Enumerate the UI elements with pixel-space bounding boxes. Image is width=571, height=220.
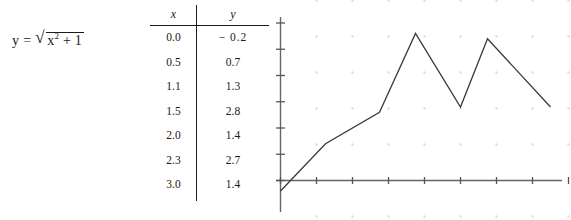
grid-dot	[460, 216, 462, 218]
grid-dot	[388, 108, 390, 110]
grid-dot	[388, 72, 390, 74]
equation-operator: =	[23, 33, 31, 48]
data-polyline	[281, 34, 551, 192]
grid-dot	[532, 72, 534, 74]
table-header-row: x y	[150, 3, 269, 25]
line-chart	[270, 0, 571, 220]
grid-dot	[532, 108, 534, 110]
grid-dot	[496, 216, 498, 218]
radicand-tail: + 1	[63, 33, 82, 48]
grid-dot	[496, 108, 498, 110]
table-column-divider	[196, 5, 197, 201]
grid-dot	[424, 216, 426, 218]
grid-dot	[496, 36, 498, 38]
table-row: 3.0 1.4	[150, 172, 269, 197]
grid-dot	[388, 36, 390, 38]
grid-dot	[568, 108, 570, 110]
grid-dot	[316, 36, 318, 38]
cell-y: 0.7	[197, 50, 269, 75]
grid-dot	[388, 216, 390, 218]
table-row: 2.0 1.4	[150, 123, 269, 148]
grid-dot	[460, 0, 462, 2]
table-row: 2.3 2.7	[150, 148, 269, 173]
grid-dot	[496, 0, 498, 2]
grid-dot	[424, 144, 426, 146]
grid-dot	[532, 36, 534, 38]
grid-dot	[316, 144, 318, 146]
cell-x: 2.3	[150, 148, 197, 173]
grid-dot	[352, 144, 354, 146]
grid-dot	[424, 0, 426, 2]
cell-y: 1.4	[197, 123, 269, 148]
column-header-x: x	[150, 3, 197, 25]
cell-x: 0.0	[150, 25, 197, 50]
grid-dot	[352, 72, 354, 74]
chart-axes	[276, 17, 569, 212]
cell-y: 2.7	[197, 148, 269, 173]
radical-expression: √x2 + 1	[35, 31, 84, 48]
equation-formula: y=√x2 + 1	[12, 31, 84, 48]
grid-dots	[316, 0, 570, 218]
grid-dot	[388, 0, 390, 2]
grid-dot	[532, 0, 534, 2]
grid-dot	[388, 144, 390, 146]
table-row: 1.5 2.8	[150, 99, 269, 124]
grid-dot	[424, 36, 426, 38]
grid-dot	[568, 72, 570, 74]
radicand: x2 + 1	[46, 32, 84, 48]
grid-dot	[532, 216, 534, 218]
cell-y: 1.4	[197, 172, 269, 197]
grid-dot	[424, 108, 426, 110]
table-row: 0.5 0.7	[150, 50, 269, 75]
cell-x: 1.5	[150, 99, 197, 124]
grid-dot	[568, 36, 570, 38]
grid-dot	[568, 216, 570, 218]
grid-dot	[316, 0, 318, 2]
radicand-base: x	[47, 33, 54, 48]
grid-dot	[568, 144, 570, 146]
grid-dot	[316, 72, 318, 74]
grid-dot	[316, 216, 318, 218]
grid-dot	[568, 0, 570, 2]
equation-lhs: y	[12, 33, 19, 48]
grid-dot	[352, 108, 354, 110]
cell-y: 1.3	[197, 74, 269, 99]
table-header-rule	[150, 25, 269, 26]
grid-dot	[316, 108, 318, 110]
table-row: 0.0 − 0.2	[150, 25, 269, 50]
column-header-y: y	[197, 3, 269, 25]
grid-dot	[352, 36, 354, 38]
cell-x: 2.0	[150, 123, 197, 148]
grid-dot	[460, 144, 462, 146]
cell-y: 2.8	[197, 99, 269, 124]
grid-dot	[352, 0, 354, 2]
grid-dot	[352, 216, 354, 218]
cell-x: 0.5	[150, 50, 197, 75]
table-body: 0.0 − 0.2 0.5 0.7 1.1 1.3 1.5 2.8 2.0	[150, 25, 269, 197]
grid-dot	[424, 72, 426, 74]
cell-y: − 0.2	[197, 25, 269, 50]
data-table: x y 0.0 − 0.2 0.5 0.7 1.1 1.3 1.5	[150, 3, 270, 203]
cell-x: 3.0	[150, 172, 197, 197]
cell-x: 1.1	[150, 74, 197, 99]
xy-table: x y 0.0 − 0.2 0.5 0.7 1.1 1.3 1.5	[150, 3, 269, 197]
table-row: 1.1 1.3	[150, 74, 269, 99]
grid-dot	[496, 144, 498, 146]
figure-container: y=√x2 + 1 x y 0.0 − 0.2 0.5 0.7	[0, 0, 571, 220]
grid-dot	[460, 72, 462, 74]
radicand-exponent: 2	[55, 31, 60, 41]
radical-sign-icon: √	[35, 29, 45, 46]
chart-svg	[270, 0, 571, 220]
grid-dot	[496, 72, 498, 74]
grid-dot	[460, 36, 462, 38]
grid-dot	[532, 144, 534, 146]
